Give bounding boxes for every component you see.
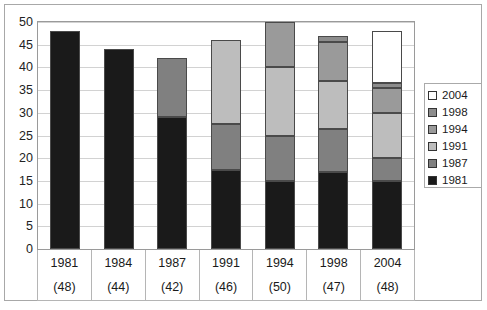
- x-axis-total-label: (48): [376, 279, 398, 296]
- x-axis-total-label: (50): [269, 279, 291, 296]
- bar-column: [157, 22, 187, 249]
- y-axis-tick-label: 25: [19, 129, 33, 143]
- x-axis-labels: 1981(48)1984(44)1987(42)1991(46)1994(50)…: [37, 250, 415, 301]
- bar-column: [211, 22, 241, 249]
- bar-segment: [211, 40, 241, 124]
- bar-segment: [318, 172, 348, 249]
- x-axis-year-label: 2004: [374, 255, 402, 272]
- bar-segment: [318, 42, 348, 81]
- bar-segment: [318, 36, 348, 43]
- x-axis-cell: 1987(42): [146, 250, 200, 300]
- stacked-bar-chart: 05101520253035404550 1981(48)1984(44)198…: [0, 0, 487, 310]
- bar-segment: [372, 31, 402, 83]
- legend-label: 1994: [442, 123, 468, 135]
- legend-swatch-icon: [428, 91, 437, 100]
- bar-column: [372, 22, 402, 249]
- x-axis-year-label: 1981: [51, 255, 79, 272]
- bar-segment: [211, 124, 241, 169]
- legend-swatch-icon: [428, 108, 437, 117]
- bar-segment: [372, 83, 402, 88]
- y-axis-labels: 05101520253035404550: [0, 21, 33, 250]
- legend-item[interactable]: 1994: [428, 121, 481, 137]
- legend-swatch-icon: [428, 176, 437, 185]
- y-axis-tick-label: 50: [19, 15, 33, 29]
- y-axis-tick-label: 40: [19, 60, 33, 74]
- bar-column: [50, 22, 80, 249]
- y-axis-tick-label: 5: [26, 219, 33, 233]
- bar-segment: [372, 181, 402, 249]
- bar-segment: [157, 58, 187, 117]
- x-axis-cell: 1981(48): [38, 250, 92, 300]
- legend-swatch-icon: [428, 159, 437, 168]
- x-axis-year-label: 1991: [212, 255, 240, 272]
- legend-swatch-icon: [428, 125, 437, 134]
- bar-segment: [372, 158, 402, 181]
- y-axis-tick-label: 30: [19, 106, 33, 120]
- bar-segment: [211, 170, 241, 249]
- y-axis-tick-label: 20: [19, 151, 33, 165]
- bar-segment: [372, 88, 402, 113]
- bar-segment: [157, 117, 187, 249]
- legend-label: 1987: [442, 157, 468, 169]
- y-axis-tick-label: 45: [19, 38, 33, 52]
- bar-column: [104, 22, 134, 249]
- x-axis-total-label: (42): [161, 279, 183, 296]
- legend-label: 1991: [442, 140, 468, 152]
- legend-item[interactable]: 1987: [428, 155, 481, 171]
- bar-column: [265, 22, 295, 249]
- x-axis-total-label: (46): [215, 279, 237, 296]
- x-axis-cell: 1998(47): [307, 250, 361, 300]
- bar-segment: [265, 181, 295, 249]
- bar-segment: [50, 31, 80, 249]
- x-axis-year-label: 1987: [158, 255, 186, 272]
- x-axis-cell: 1991(46): [200, 250, 254, 300]
- bar-segment: [265, 136, 295, 181]
- chart-legend: 200419981994199119871981: [424, 83, 482, 188]
- legend-item[interactable]: 1991: [428, 138, 481, 154]
- legend-label: 2004: [442, 89, 468, 101]
- legend-item[interactable]: 1998: [428, 104, 481, 120]
- bar-segment: [318, 129, 348, 172]
- bar-segment: [265, 22, 295, 67]
- legend-swatch-icon: [428, 142, 437, 151]
- legend-label: 1998: [442, 106, 468, 118]
- y-axis-tick-label: 10: [19, 197, 33, 211]
- legend-item[interactable]: 1981: [428, 172, 481, 188]
- bar-segment: [372, 113, 402, 158]
- bars-layer: [38, 22, 414, 249]
- y-axis-tick-label: 15: [19, 174, 33, 188]
- bar-segment: [265, 67, 295, 135]
- bar-segment: [104, 49, 134, 249]
- x-axis-year-label: 1998: [320, 255, 348, 272]
- legend-item[interactable]: 2004: [428, 87, 481, 103]
- bar-column: [318, 22, 348, 249]
- x-axis-cell: 2004(48): [361, 250, 415, 300]
- y-axis-tick-label: 35: [19, 83, 33, 97]
- bar-segment: [318, 81, 348, 129]
- x-axis-total-label: (47): [323, 279, 345, 296]
- x-axis-year-label: 1994: [266, 255, 294, 272]
- x-axis-year-label: 1984: [104, 255, 132, 272]
- x-axis-total-label: (48): [53, 279, 75, 296]
- x-axis-cell: 1994(50): [253, 250, 307, 300]
- y-axis-tick-label: 0: [26, 242, 33, 256]
- x-axis-total-label: (44): [107, 279, 129, 296]
- legend-label: 1981: [442, 174, 468, 186]
- x-axis-cell: 1984(44): [92, 250, 146, 300]
